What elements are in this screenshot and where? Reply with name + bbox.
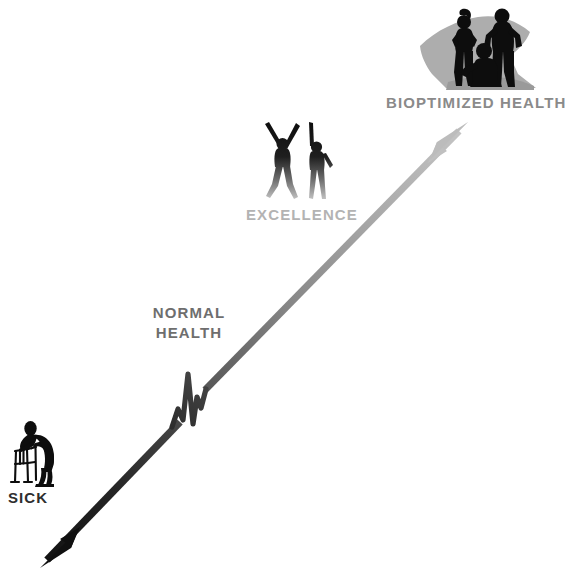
bioptimized-figures [418, 2, 540, 92]
excellence-figures [256, 120, 342, 202]
arrow-shaft [47, 131, 459, 560]
group-of-athletes-icon [418, 2, 540, 92]
label-bioptimized-health: BIOPTIMIZED HEALTH [386, 94, 566, 111]
person-with-walker-icon [6, 420, 76, 488]
sick-person-figure [6, 420, 76, 488]
two-people-celebrating-icon [256, 120, 342, 202]
label-sick: SICK [8, 489, 48, 506]
label-excellence: EXCELLENCE [246, 206, 358, 223]
label-normal-health-line1: NORMAL [133, 303, 245, 323]
label-normal-health-line2: HEALTH [133, 323, 245, 343]
heartbeat-squiggle-icon [172, 374, 206, 427]
label-normal-health: NORMAL HEALTH [133, 303, 245, 343]
